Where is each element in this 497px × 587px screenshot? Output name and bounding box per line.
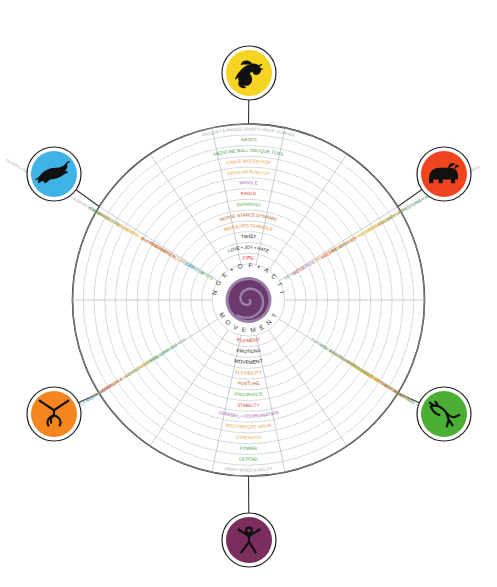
ring-top-label-1: AIKIDO bbox=[241, 137, 257, 142]
ring-bottom-label-2: POWER bbox=[240, 446, 258, 451]
badge-dragon[interactable] bbox=[222, 46, 276, 100]
ring-top-label-6: EAGLE bbox=[241, 191, 256, 196]
ring-top-label-7: SWIMMING bbox=[236, 202, 261, 208]
badge-monkey[interactable] bbox=[27, 387, 81, 441]
ring-top-label-12: FIRE bbox=[242, 255, 255, 261]
badge-fill-crane bbox=[421, 391, 467, 437]
ring-bottom-label-1: DEFEND bbox=[239, 457, 259, 462]
badge-crane[interactable] bbox=[417, 387, 471, 441]
ring-bottom-label-6: STABILITY bbox=[237, 403, 260, 409]
ring-top-label-5: WIGGLE bbox=[239, 180, 258, 185]
badge-dancer[interactable] bbox=[222, 513, 276, 567]
range-of-active-movement-wheel: RACQUET & PADDLE SPORTS • ROCK CLIMBINGS… bbox=[0, 0, 497, 587]
wheel-svg: RACQUET & PADDLE SPORTS • ROCK CLIMBINGS… bbox=[0, 0, 497, 587]
badge-bear[interactable] bbox=[417, 147, 471, 201]
ring-bottom-label-3: STRENGTH bbox=[236, 435, 262, 441]
badge-panther[interactable] bbox=[27, 147, 81, 201]
ring-bottom-label-8: POSTURE bbox=[237, 381, 260, 387]
